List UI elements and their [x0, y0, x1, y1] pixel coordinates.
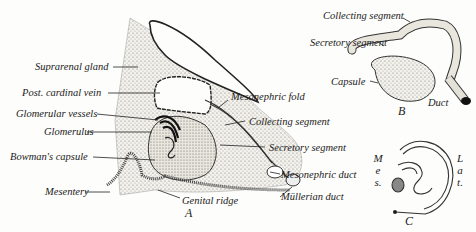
label-mesonephric-fold: Mesonephric fold: [231, 91, 305, 102]
figure-canvas: Suprarenal gland Post. cardinal vein Glo…: [0, 0, 476, 232]
label-post-cardinal-vein: Post. cardinal vein: [22, 87, 101, 98]
label-b-collecting-segment: Collecting segment: [323, 10, 404, 21]
label-b-secretory-segment: Secretory segment: [310, 37, 387, 48]
label-mullerian-duct: Müllerian duct: [281, 191, 344, 202]
label-secretory-segment: Secretory segment: [269, 142, 346, 153]
label-c-mes-2: e: [373, 164, 383, 176]
label-c-mes-1: M: [373, 152, 383, 164]
panel-letter-b: B: [398, 104, 405, 119]
panel-b-drawing: [352, 23, 471, 105]
label-mesentery: Mesentery: [45, 186, 89, 197]
label-c-mes-3: s.: [373, 176, 383, 188]
panel-c-drawing: [392, 141, 453, 214]
label-b-duct: Duct: [428, 97, 448, 108]
label-suprarenal-gland: Suprarenal gland: [35, 61, 108, 72]
label-genital-ridge: Genital ridge: [182, 195, 238, 206]
label-bowmans-capsule: Bowman's capsule: [10, 151, 88, 162]
label-c-lat: L a t.: [455, 152, 465, 188]
label-c-lat-3: t.: [455, 176, 465, 188]
label-b-capsule: Capsule: [331, 76, 365, 87]
label-c-lat-2: a: [455, 164, 465, 176]
label-c-mes: M e s.: [373, 152, 383, 188]
panel-letter-a: A: [185, 206, 192, 221]
label-glomerulus: Glomerulus: [44, 126, 94, 137]
label-c-lat-1: L: [455, 152, 465, 164]
label-glomerular-vessels: Glomerular vessels: [16, 108, 97, 119]
panel-a-drawing: [107, 18, 302, 195]
label-collecting-segment: Collecting segment: [249, 116, 330, 127]
label-mesonephric-duct: Mesonephric duct: [281, 169, 357, 180]
panel-letter-c: C: [405, 214, 413, 229]
